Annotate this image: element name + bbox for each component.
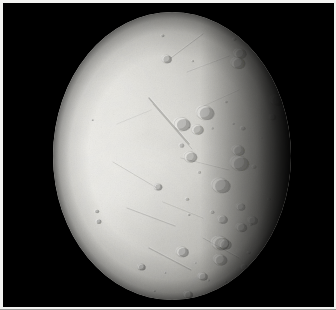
crater-rim-highlight (240, 264, 245, 269)
crater-rim-highlight (232, 123, 234, 125)
crater-rim-outline (231, 57, 244, 69)
fracture-line (149, 248, 191, 270)
crater-rim-outline (236, 203, 244, 210)
crater-shadow (200, 273, 208, 280)
crater-shadow (97, 220, 102, 224)
crater-shadow (215, 180, 231, 194)
fracture-line (127, 208, 175, 226)
crater-shadow (261, 137, 263, 139)
crater-rim-highlight (198, 272, 206, 279)
crater-shadow (186, 153, 197, 163)
photograph-frame: Icy moon imaged by a passing spacecraft (0, 0, 336, 310)
crater-rim-highlight (175, 247, 185, 256)
crater-shadow (238, 204, 246, 211)
crater-rim-outline (162, 55, 171, 63)
crater-shadow (139, 264, 146, 270)
crater-shadow (154, 290, 156, 292)
crater-shadow (92, 119, 94, 121)
crater-shadow (195, 262, 197, 264)
crater-rim-outline (218, 215, 227, 223)
fracture-highlight (199, 89, 239, 107)
crater-shadow (192, 60, 195, 62)
crater-rim-outline (154, 184, 162, 191)
crater-rim-highlight (230, 57, 241, 67)
fracture-highlight (113, 161, 157, 187)
crater-shadow (178, 248, 189, 257)
fracture-highlight (170, 33, 202, 57)
fracture-line (117, 110, 151, 124)
crater-shadow (188, 214, 191, 216)
crater-shadow (95, 210, 99, 214)
crater-rim-highlight (173, 117, 186, 129)
crater-rim-outline (212, 178, 229, 193)
crater-rim-highlight (233, 48, 243, 57)
crater-rim-highlight (224, 280, 226, 282)
crater-rim-highlight (91, 119, 93, 121)
smooth-plains-region (53, 12, 291, 300)
crater-shadow (198, 171, 201, 174)
crater-rim-outline (174, 117, 190, 131)
crater-rim-highlight (195, 105, 209, 117)
fracture-line (163, 202, 203, 218)
crater-rim-highlight (183, 151, 194, 160)
crater-shadow (234, 146, 245, 155)
crater-shadow (233, 38, 236, 41)
fracture-highlight (181, 157, 229, 169)
crater-rim-outline (248, 216, 257, 224)
crater-shadow (225, 281, 227, 283)
crater-rim-outline (212, 236, 228, 250)
fracture-line (187, 56, 229, 72)
crater-rim-highlight (211, 127, 213, 129)
crater-rim-highlight (229, 155, 244, 168)
fracture-line (153, 104, 192, 149)
crater-rim-highlight (187, 213, 190, 215)
crater-shadow (250, 224, 253, 226)
fracture-line (149, 98, 189, 144)
crater-rim-highlight (194, 262, 196, 264)
fracture-lines (113, 34, 239, 270)
crater-shadow (179, 144, 184, 148)
crater-rim-highlight (161, 55, 169, 62)
fracture-line (113, 162, 157, 188)
crater-rim-highlight (232, 37, 235, 40)
crater-shadow (215, 238, 230, 251)
crater-shadow (232, 123, 234, 125)
fracture-highlight (154, 103, 193, 148)
crater-rim-highlight (231, 145, 241, 154)
crater-rim-highlight (191, 60, 193, 62)
crater-rim-highlight (211, 236, 225, 248)
crater-shadow (185, 292, 193, 299)
crater-shadow (216, 256, 228, 266)
crater-shadow (155, 184, 162, 190)
crater-rim-outline (184, 291, 193, 299)
limb-darkening (53, 12, 291, 300)
crater-rim-highlight (267, 198, 270, 200)
fracture-highlight (150, 247, 192, 269)
crater-shadow (219, 216, 228, 223)
fracture-line (171, 34, 203, 58)
crater-shadow (236, 50, 247, 59)
crater-rim-outline (269, 114, 276, 120)
crater-rim-highlight (153, 183, 160, 189)
crater-shadow (186, 198, 190, 201)
crater-rim-highlight (197, 171, 200, 174)
photo-plate (3, 3, 334, 307)
crater-rim-highlight (183, 291, 190, 297)
terrain-texture-layer (53, 12, 291, 300)
crater-shadow (268, 198, 271, 201)
crater-rim-outline (192, 125, 204, 135)
crater-rim-outline (219, 239, 231, 249)
fracture-highlight (163, 201, 203, 217)
crater-shadow (248, 251, 251, 254)
crater-rim-outline (234, 48, 246, 59)
crater-shadow (200, 107, 215, 120)
crater-rim-highlight (235, 223, 244, 231)
crater-rim-highlight (94, 209, 98, 212)
crater-rim-highlight (185, 197, 188, 200)
crater-rim-highlight (210, 210, 214, 213)
crater-shadow (221, 240, 232, 249)
crater-rim-highlight (240, 126, 245, 130)
crater-rim-highlight (249, 223, 252, 225)
crater-rim-highlight (217, 215, 225, 222)
crater-rim-outline (270, 95, 283, 106)
